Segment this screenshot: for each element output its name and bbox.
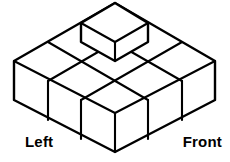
label-left: Left xyxy=(25,134,53,149)
label-front: Front xyxy=(183,134,222,149)
figure-canvas: Left Front xyxy=(0,0,230,162)
